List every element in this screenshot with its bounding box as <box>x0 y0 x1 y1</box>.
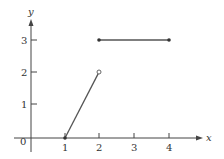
y-tick-label-2: 2 <box>21 67 27 78</box>
x-tick-label-1: 1 <box>62 142 68 153</box>
y-axis-arrow-icon <box>29 19 34 26</box>
y-ticks <box>31 40 37 104</box>
y-axis-label: y <box>27 6 34 17</box>
x-tick-label-4: 4 <box>166 142 172 153</box>
closed-dot-1-0 <box>63 136 67 140</box>
y-tick-label-1: 1 <box>21 99 27 110</box>
ramp-segment <box>65 74 98 138</box>
closed-dot-2-3 <box>97 38 101 42</box>
x-axis-label: x <box>206 132 212 143</box>
x-tick-label-3: 3 <box>131 142 137 153</box>
closed-dot-4-3 <box>167 38 171 42</box>
origin-label: 0 <box>20 136 26 147</box>
x-tick-label-2: 2 <box>96 142 102 153</box>
function-graph: 0 1 2 3 4 3 2 1 x y <box>0 0 224 159</box>
y-tick-label-3: 3 <box>21 35 27 46</box>
open-dot-2-2 <box>97 70 101 74</box>
x-axis-arrow-icon <box>196 136 203 141</box>
x-ticks <box>65 133 169 138</box>
